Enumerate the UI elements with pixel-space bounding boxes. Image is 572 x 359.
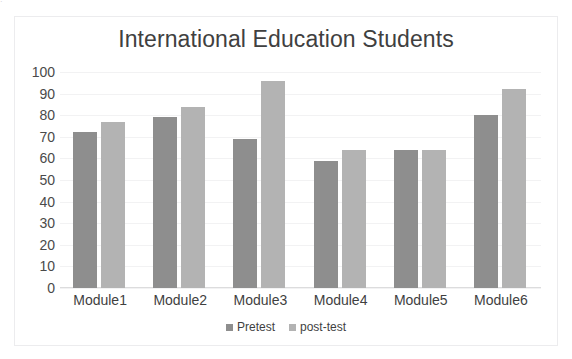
y-axis-tick-label: 100 xyxy=(32,65,55,79)
legend-item[interactable]: post-test xyxy=(289,320,346,334)
bar[interactable] xyxy=(181,107,205,288)
bar[interactable] xyxy=(474,115,498,288)
bars-layer xyxy=(60,72,541,288)
chart-title: International Education Students xyxy=(15,26,557,53)
bar[interactable] xyxy=(233,139,257,288)
scan-artifact-top-text: . xyxy=(0,0,572,9)
bar-group xyxy=(60,72,140,288)
legend-item[interactable]: Pretest xyxy=(226,320,275,334)
chart-container: International Education Students 1009080… xyxy=(14,16,558,346)
y-axis-tick-label: 30 xyxy=(39,216,55,230)
legend-swatch-icon xyxy=(226,324,233,331)
legend-label: post-test xyxy=(300,320,346,334)
bar-group xyxy=(461,72,541,288)
x-axis-tick-label: Module1 xyxy=(60,292,140,308)
bar[interactable] xyxy=(314,161,338,288)
y-axis-tick-label: 80 xyxy=(39,108,55,122)
x-axis-tick-label: Module3 xyxy=(220,292,300,308)
bar[interactable] xyxy=(342,150,366,288)
x-axis-tick-label: Module5 xyxy=(381,292,461,308)
y-axis-tick-label: 50 xyxy=(39,173,55,187)
x-axis-tick-label: Module2 xyxy=(140,292,220,308)
bar[interactable] xyxy=(73,132,97,288)
bar-group xyxy=(140,72,220,288)
bar-group xyxy=(220,72,300,288)
bar[interactable] xyxy=(101,122,125,288)
x-axis-tick-label: Module4 xyxy=(301,292,381,308)
y-axis-tick-label: 20 xyxy=(39,238,55,252)
bar-group xyxy=(301,72,381,288)
bar[interactable] xyxy=(422,150,446,288)
bar[interactable] xyxy=(502,89,526,288)
chart-legend: Pretestpost-test xyxy=(15,320,557,334)
y-axis-tick-label: 90 xyxy=(39,87,55,101)
bar[interactable] xyxy=(394,150,418,288)
legend-swatch-icon xyxy=(289,324,296,331)
y-axis-tick-label: 40 xyxy=(39,195,55,209)
bar[interactable] xyxy=(153,117,177,288)
bar[interactable] xyxy=(261,81,285,288)
y-axis-tick-label: 0 xyxy=(47,281,55,295)
y-axis: 1009080706050403020100 xyxy=(15,72,55,288)
y-axis-tick-label: 10 xyxy=(39,259,55,273)
gridline xyxy=(60,288,541,289)
bar-group xyxy=(381,72,461,288)
y-axis-tick-label: 60 xyxy=(39,151,55,165)
legend-label: Pretest xyxy=(237,320,275,334)
y-axis-tick-label: 70 xyxy=(39,130,55,144)
x-axis-tick-label: Module6 xyxy=(461,292,541,308)
x-axis: Module1Module2Module3Module4Module5Modul… xyxy=(60,292,541,312)
